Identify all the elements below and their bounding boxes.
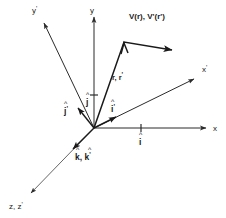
label-j-hat: ^ j (85, 91, 90, 107)
i-hat-symbol: i (139, 137, 141, 147)
axis-label-x: x (213, 124, 217, 133)
axis-label-z-z-prime: z, z' (9, 201, 23, 211)
label-i-prime-hat: ^ i' (111, 98, 115, 114)
j-prime-hat-symbol: j' (63, 105, 68, 116)
label-j-prime-hat: ^ j' (63, 100, 68, 116)
label-i-hat: ^ i (139, 131, 143, 147)
k-k-prime-hat-symbol: k, k' (75, 151, 91, 162)
position-vector-arrowhead (121, 43, 128, 54)
axis-label-y-prime: y' (32, 5, 37, 15)
field-vector-label: V(r), V'(r') (129, 12, 165, 21)
axis-label-y: y (90, 6, 94, 15)
position-vector-label: r, r' (112, 71, 124, 82)
vectors-group (94, 42, 172, 128)
label-k-k-prime-hat: ^ ^ k, k' (75, 146, 92, 162)
i-prime-hat-symbol: i' (111, 103, 115, 114)
axes-group (31, 17, 206, 193)
axis-label-x-prime: x' (202, 64, 207, 74)
j-hat-symbol: j (85, 97, 88, 107)
vector-diagram-figure: y' y x' x z, z' ^ j' ^ j (0, 0, 226, 218)
axis-line-y-prime (44, 23, 94, 128)
coordinate-frame-diagram: y' y x' x z, z' ^ j' ^ j (0, 0, 226, 218)
position-and-field-vector-path (94, 42, 172, 128)
